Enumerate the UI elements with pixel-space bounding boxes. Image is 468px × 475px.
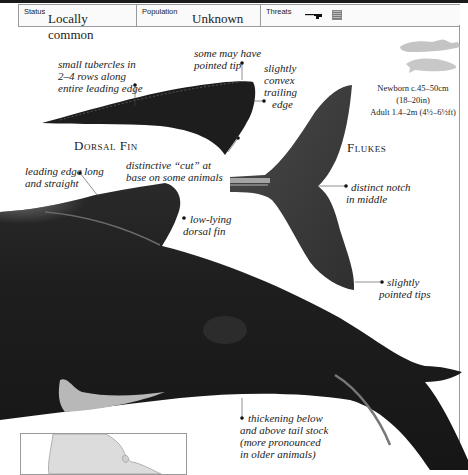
newborn-size-imperial: (18–20in) — [370, 94, 456, 106]
note-line: slightly — [264, 62, 297, 74]
note-line: small tubercles in — [58, 58, 143, 70]
trailing-edge-annotation: slightly convex trailing edge — [264, 62, 297, 110]
note-line: distinctive “cut” at — [126, 159, 223, 171]
note-line: low-lying — [190, 213, 232, 225]
size-info: Newborn c.45–50cm (18–20in) Adult 1.4–2m… — [370, 82, 456, 118]
leading-edge-annotation: leading edge long and straight — [25, 165, 104, 189]
note-line: some may have — [194, 47, 261, 59]
note-line: dorsal fin — [183, 225, 232, 237]
adult-size: Adult 1.4–2m (4½–6½ft) — [370, 106, 456, 118]
coastline-map — [21, 434, 186, 474]
size-comparison-icon — [400, 39, 460, 73]
note-line: entire leading edge — [58, 82, 143, 94]
note-line: convex — [264, 74, 297, 86]
note-line: leading edge long — [25, 165, 104, 177]
note-line: pointed tip — [194, 59, 261, 71]
pointed-tips-annotation: slightly pointed tips — [387, 276, 431, 300]
note-line: 2–4 rows along — [58, 70, 143, 82]
note-line: and above tail stock — [240, 424, 328, 436]
note-line: in middle — [346, 193, 411, 205]
note-line: base on some animals — [126, 171, 223, 183]
note-line: slightly — [387, 276, 431, 288]
note-line: pointed tips — [379, 288, 431, 300]
note-line: edge — [264, 98, 297, 110]
note-line: in older animals) — [240, 448, 328, 460]
flukes-heading: Flukes — [347, 140, 386, 156]
tubercles-annotation: small tubercles in 2–4 rows along entire… — [58, 58, 143, 94]
dorsal-fin-heading: Dorsal Fin — [74, 138, 138, 154]
tail-stock-annotation: thickening below and above tail stock (m… — [248, 412, 328, 460]
note-line: trailing — [264, 86, 297, 98]
newborn-size: Newborn c.45–50cm — [370, 82, 456, 94]
note-line: (more pronounced — [240, 436, 328, 448]
range-map — [20, 433, 187, 475]
pointed-tip-annotation: some may have pointed tip — [194, 47, 261, 71]
low-lying-annotation: low-lying dorsal fin — [190, 213, 232, 237]
note-line: thickening below — [248, 412, 328, 424]
note-line: and straight — [25, 177, 104, 189]
dolphin-body — [0, 183, 468, 470]
cut-annotation: distinctive “cut” at base on some animal… — [126, 159, 223, 183]
note-line: distinct notch — [351, 181, 411, 193]
notch-annotation: distinct notch in middle — [351, 181, 411, 205]
